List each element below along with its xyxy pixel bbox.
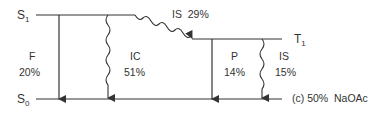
s0-label: S0 xyxy=(17,93,29,108)
internal-conversion-wavy-arrow xyxy=(106,15,110,98)
internal-conversion-value: 51% xyxy=(124,67,145,78)
intersystem-crossing-label: IS 29% xyxy=(172,9,209,20)
t1-label: T1 xyxy=(294,33,306,48)
t1-intersystem-value: 15% xyxy=(275,67,296,78)
phosphorescence-label: P xyxy=(231,51,238,62)
t1-intersystem-wavy-arrow xyxy=(260,39,264,98)
fluorescence-label: F xyxy=(29,51,35,62)
fluorescence-value: 20% xyxy=(19,67,40,78)
phosphorescence-value: 14% xyxy=(224,67,245,78)
s1-label: S1 xyxy=(17,9,29,24)
t1-intersystem-label: IS xyxy=(279,51,289,62)
caption: (c) 50% NaOAc xyxy=(292,93,368,104)
internal-conversion-label: IC xyxy=(130,51,141,62)
